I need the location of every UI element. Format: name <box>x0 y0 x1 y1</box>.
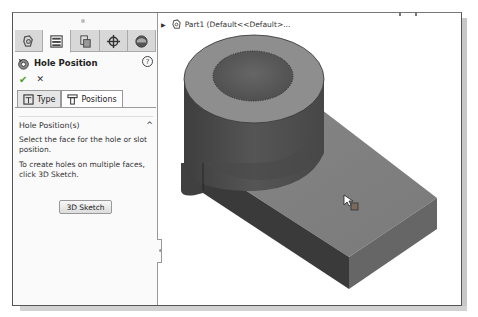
tab-configuration-manager[interactable] <box>71 30 99 52</box>
tab-positions-label: Positions <box>81 95 116 104</box>
subtab-divider <box>15 107 156 108</box>
hint-text: To create holes on multiple faces, click… <box>19 160 153 180</box>
featuremanager-icon <box>21 34 36 49</box>
frame-shadow-bottom <box>20 306 467 311</box>
propertymanager-icon <box>49 34 64 49</box>
tab-type-label: Type <box>37 95 55 104</box>
hole-wizard-icon <box>17 57 30 70</box>
action-buttons: ✔ ✕ <box>19 74 44 85</box>
ok-button[interactable]: ✔ <box>19 74 27 85</box>
property-manager-panel: Hole Position ? ✔ ✕ Type Positio <box>13 13 158 305</box>
property-manager-header: Hole Position ? <box>17 56 153 70</box>
hole-positions-group: Hole Position(s) ^ Select the face for t… <box>19 116 153 180</box>
page-title: Hole Position <box>34 58 98 68</box>
tab-positions[interactable]: Positions <box>61 90 122 108</box>
graphics-area[interactable]: ▶ Part1 (Default<<Default>... <box>159 13 461 305</box>
positions-icon <box>67 94 78 105</box>
collapse-caret-icon[interactable]: ^ <box>146 121 153 130</box>
group-title: Hole Position(s) <box>19 121 80 130</box>
hole-preview <box>213 51 293 101</box>
crosshair-icon <box>106 34 121 49</box>
configurationmanager-icon <box>78 34 93 49</box>
display-manager-icon <box>134 34 149 49</box>
group-header[interactable]: Hole Position(s) ^ <box>19 116 153 130</box>
3d-sketch-button[interactable]: 3D Sketch <box>59 200 112 214</box>
tab-property-manager[interactable] <box>43 30 71 53</box>
tab-display-manager[interactable] <box>128 30 156 52</box>
manager-tabs <box>15 30 156 52</box>
hole-subtabs: Type Positions <box>17 90 123 108</box>
pointer-cursor-icon <box>343 194 363 214</box>
help-icon[interactable]: ? <box>142 56 153 67</box>
solidworks-window: Hole Position ? ✔ ✕ Type Positio <box>12 12 462 306</box>
panel-grip[interactable] <box>81 19 85 23</box>
type-icon <box>23 94 34 105</box>
tab-feature-manager[interactable] <box>15 30 43 52</box>
tab-dimxpert-manager[interactable] <box>100 30 128 52</box>
part-model[interactable] <box>159 13 461 305</box>
instruction-text: Select the face for the hole or slot pos… <box>19 135 153 155</box>
tab-type[interactable]: Type <box>17 90 61 108</box>
cancel-button[interactable]: ✕ <box>36 74 44 85</box>
splitter-grip-icon <box>159 249 162 252</box>
